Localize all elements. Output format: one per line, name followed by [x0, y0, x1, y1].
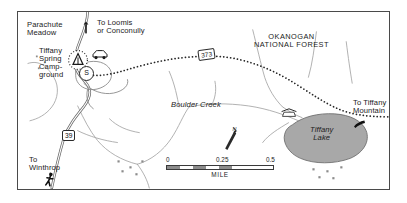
- route-shield-373[interactable]: 373: [197, 48, 215, 61]
- map-figure: Parachute Meadow To Loomis or Conconully…: [0, 0, 407, 203]
- route-shield-39[interactable]: 39: [62, 130, 75, 141]
- scale-tick-0: 0: [166, 156, 170, 163]
- scale-tick-labels: 0 0.25 0.5: [166, 156, 316, 165]
- scale-bar: 0 0.25 0.5 MILE: [166, 156, 316, 178]
- label-boulder-creek: Boulder Creek: [171, 101, 221, 109]
- north-arrow-icon: N: [221, 126, 243, 152]
- picnic-shelter-icon[interactable]: [281, 104, 297, 114]
- s-circle-icon[interactable]: S: [79, 66, 94, 81]
- car-icon[interactable]: [91, 47, 109, 59]
- label-tiffany-lake: Tiffany Lake: [310, 126, 333, 142]
- hiker-icon: [353, 115, 366, 125]
- label-parachute-meadow: Parachute Meadow: [27, 21, 63, 37]
- svg-text:N: N: [233, 126, 237, 132]
- label-to-tiffany-mountain: To Tiffany Mountain: [353, 99, 386, 115]
- scale-tick-1: 0.25: [216, 156, 228, 163]
- label-to-winthrop: To Winthrop: [29, 156, 60, 172]
- scale-tick-2: 0.5: [266, 156, 275, 163]
- scale-bar-graphic: [166, 165, 274, 170]
- trail-marker-icon: [82, 21, 90, 35]
- label-to-loomis: To Loomis or Conconully: [97, 19, 145, 35]
- label-okanogan-national-forest: OKANOGAN NATIONAL FOREST: [254, 33, 329, 49]
- label-tiffany-spring-campground: Tiffany Spring Camp- ground: [39, 47, 63, 79]
- scale-unit-label: MILE: [166, 171, 274, 178]
